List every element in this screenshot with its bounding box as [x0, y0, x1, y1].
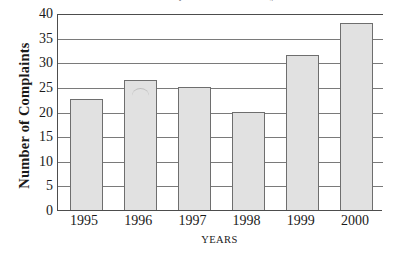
x-axis-title: YEARS	[57, 234, 382, 245]
y-axis-tick-label: 10	[7, 155, 53, 169]
y-axis-tick-label: 20	[7, 106, 53, 120]
x-axis-tick-label: 1997	[165, 213, 219, 229]
gridline	[58, 113, 383, 114]
y-axis-tick-label: 35	[7, 32, 53, 46]
x-axis-tick-label: 2000	[328, 213, 382, 229]
y-axis-tick-labels: 0510152025303540	[0, 14, 53, 211]
y-axis-tick-label: 30	[7, 56, 53, 70]
x-axis-tick-label: 1995	[57, 213, 111, 229]
bar-1995	[70, 99, 103, 210]
y-axis-tick-label: 40	[7, 7, 53, 21]
y-axis-tick-label: 15	[7, 130, 53, 144]
x-axis-tick-labels: 199519961997199819992000	[57, 213, 382, 233]
bar-2000	[340, 23, 373, 210]
bar-1999	[286, 55, 319, 210]
gridline	[58, 63, 383, 64]
y-axis-tick-label: 25	[7, 81, 53, 95]
gridline	[58, 186, 383, 187]
bar-chart-figure: Number of Complaints Received by Year Nu…	[0, 0, 399, 261]
x-axis-tick-label: 1999	[274, 213, 328, 229]
y-axis-tick-label: 5	[7, 179, 53, 193]
gridline	[58, 137, 383, 138]
y-axis-tick-label: 0	[7, 204, 53, 218]
plot-area	[57, 14, 382, 211]
bar-1998	[232, 112, 265, 211]
scan-artifact	[132, 88, 149, 96]
gridline	[58, 39, 383, 40]
gridline	[58, 162, 383, 163]
gridline	[58, 14, 383, 15]
chart-title: Number of Complaints Received by Year	[0, 0, 399, 1]
bar-1997	[178, 87, 211, 210]
x-axis-tick-label: 1998	[220, 213, 274, 229]
bar-1996	[124, 80, 157, 211]
gridline	[58, 88, 383, 89]
x-axis-tick-label: 1996	[111, 213, 165, 229]
